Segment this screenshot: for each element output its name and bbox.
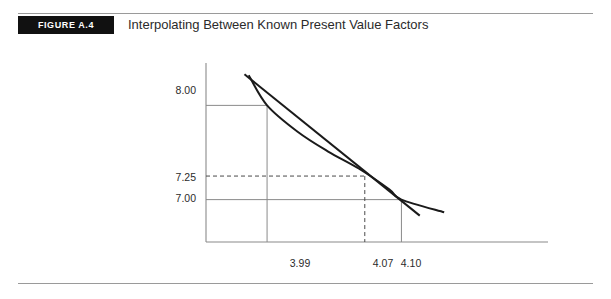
y-tick-label-8-00: 8.00 [176, 84, 197, 96]
interpolation-straight-line [244, 74, 419, 215]
x-tick-label-3-99: 3.99 [290, 257, 311, 269]
y-tick-label-7-00: 7.00 [176, 192, 197, 204]
x-tick-label-4-07: 4.07 [373, 257, 394, 269]
x-tick-label-4-10: 4.10 [401, 257, 422, 269]
interpolation-chart: 8.00 7.25 7.00 3.99 4.07 4.10 [0, 0, 611, 299]
y-tick-label-7-25: 7.25 [176, 171, 197, 183]
figure-panel: FIGURE A.4 Interpolating Between Known P… [0, 0, 611, 299]
present-value-curve [249, 75, 444, 212]
bottom-divider [18, 283, 593, 284]
